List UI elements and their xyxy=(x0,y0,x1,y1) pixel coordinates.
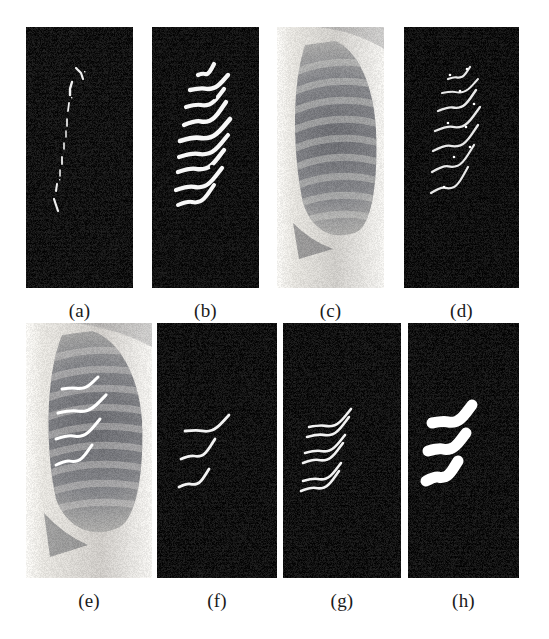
panel-h-caption: (h) xyxy=(408,591,519,610)
panel-b-caption: (b) xyxy=(152,301,259,320)
panel-d-image xyxy=(404,27,519,288)
panel-g-caption: (g) xyxy=(283,591,401,610)
panel-e-image xyxy=(26,323,152,578)
panel-c-image xyxy=(277,27,384,288)
panel-f-caption: (f) xyxy=(157,591,277,610)
panel-a xyxy=(26,27,133,288)
panel-g xyxy=(283,323,401,578)
panel-g-image xyxy=(283,323,401,578)
panel-c xyxy=(277,27,384,288)
panel-a-image xyxy=(26,27,133,288)
panel-d xyxy=(404,27,519,288)
panel-e-caption: (e) xyxy=(26,591,152,610)
panel-b xyxy=(152,27,259,288)
panel-c-caption: (c) xyxy=(277,301,384,320)
panel-h xyxy=(408,323,519,578)
figure-container: (a) (b) (c) (d) (e) (f) (g) (h) xyxy=(0,0,549,639)
panel-a-caption: (a) xyxy=(26,301,133,320)
panel-f-image xyxy=(157,323,277,578)
panel-h-image xyxy=(408,323,519,578)
panel-b-image xyxy=(152,27,259,288)
panel-d-caption: (d) xyxy=(404,301,519,320)
panel-e xyxy=(26,323,152,578)
panel-f xyxy=(157,323,277,578)
